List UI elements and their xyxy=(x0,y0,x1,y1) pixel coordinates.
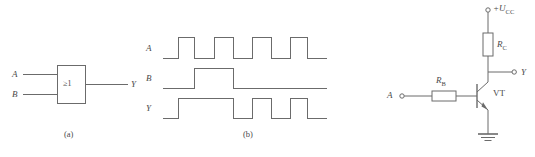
output-terminal-node xyxy=(512,70,516,74)
supply-terminal-node xyxy=(486,8,490,12)
collector-resistor-label-subscript: C xyxy=(503,44,507,51)
waveform-label-y: Y xyxy=(146,104,151,113)
circuit-input-label: A xyxy=(387,91,393,100)
supply-label: +UCC xyxy=(493,4,514,15)
input-terminal-node xyxy=(400,94,404,98)
waveform-signal-b xyxy=(163,68,327,88)
transistor-circuit-svg xyxy=(370,0,535,157)
supply-label-main: +U xyxy=(493,3,506,13)
waveform-label-a: A xyxy=(146,44,152,53)
transistor-emitter-arrow xyxy=(482,102,489,110)
supply-label-subscript: CC xyxy=(506,8,515,15)
gate-input-a-label: A xyxy=(12,70,18,79)
caption-b: (b) xyxy=(243,130,253,139)
circuit-output-label: Y xyxy=(521,68,526,77)
gate-input-b-label: B xyxy=(12,90,18,99)
gate-output-label: Y xyxy=(131,80,136,89)
or-gate-symbol-text: ≥1 xyxy=(63,80,71,88)
waveform-signal-a xyxy=(163,37,327,58)
base-resistor-label-subscript: B xyxy=(442,80,446,87)
caption-a: (a) xyxy=(64,130,73,139)
collector-resistor-body xyxy=(483,33,493,56)
transistor-label: VT xyxy=(493,89,505,98)
collector-resistor-label: RC xyxy=(497,40,507,51)
waveform-signal-y xyxy=(163,98,327,118)
figure-container: ≥1 A B Y (a) A B Y (b) xyxy=(0,0,535,157)
base-resistor-label: RB xyxy=(436,76,446,87)
transistor-collector-lead xyxy=(477,82,488,92)
waveform-label-b: B xyxy=(146,74,152,83)
gate-diagram-svg xyxy=(0,0,170,157)
base-resistor-body xyxy=(432,91,456,101)
